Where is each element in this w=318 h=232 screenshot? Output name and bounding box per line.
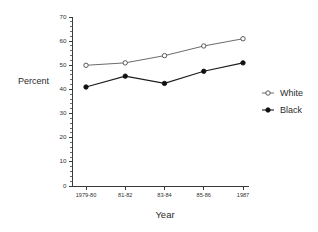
x-tick-label: 1987 [237,192,249,198]
x-axis-title: Year [155,209,174,220]
legend-open-circle-icon [266,91,270,95]
y-tick-label: 60 [60,37,67,44]
legend-filled-circle-icon [266,108,270,112]
data-point-white [84,63,88,67]
data-point-white [202,44,206,48]
y-tick-label: 10 [60,157,67,164]
data-point-black [162,81,166,85]
legend-item-black[interactable]: Black [262,105,303,115]
y-tick-label: 20 [60,133,67,140]
x-tick-label: 1979-80 [76,192,97,198]
y-tick-label: 40 [60,85,67,92]
series-white [84,37,245,68]
chart-container: 010203040506070 1979-8081-8283-8485-8619… [0,0,318,232]
series-markers-white [84,37,245,68]
y-axis-major-ticks [69,17,73,186]
y-axis-title: Percent [18,76,50,86]
y-tick-label: 50 [60,61,67,68]
y-axis-group: 010203040506070 [60,13,73,189]
y-tick-label: 30 [60,109,67,116]
data-point-white [162,53,166,57]
legend-label-white: White [280,88,303,98]
legend: White Black [262,88,303,115]
data-point-white [123,61,127,65]
data-point-black [202,69,206,73]
line-chart: 010203040506070 1979-8081-8283-8485-8619… [0,0,318,232]
series-markers-black [84,61,245,90]
y-tick-label: 70 [60,13,67,20]
x-tick-label: 81-82 [118,192,132,198]
x-tick-label: 85-86 [197,192,211,198]
data-point-black [84,85,88,89]
y-tick-label: 0 [63,182,67,189]
x-tick-label: 83-84 [157,192,171,198]
x-axis-tick-labels: 1979-8081-8283-8485-861987 [76,192,249,198]
legend-label-black: Black [280,105,303,115]
data-point-white [241,37,245,41]
series-line-white [86,39,243,66]
data-point-black [123,74,127,78]
series-black [84,61,245,90]
data-point-black [241,61,245,65]
x-axis-group: 1979-8081-8283-8485-861987 [73,186,250,198]
y-axis-tick-labels: 010203040506070 [60,13,67,189]
legend-item-white[interactable]: White [262,88,303,98]
